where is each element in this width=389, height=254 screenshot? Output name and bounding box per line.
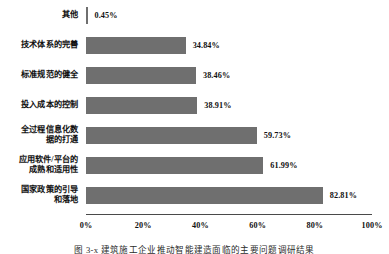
bar-row: 投入成本的控制38.91% [0,90,389,120]
bar-track: 59.73% [86,127,372,144]
bar-row: 标准规范的健全38.46% [0,60,389,90]
x-tick-label: 100% [362,221,383,230]
category-label: 国家政策的引导 和落地 [0,185,78,206]
category-label: 应用软件/平台的 成熟和适用性 [0,155,78,176]
figure-caption: 图 3-x 建筑施工企业推动智能建造面临的主要问题调研结果 [0,245,389,254]
bar-fill [86,67,196,84]
bar-value-label: 38.46% [203,71,230,80]
bar-row: 全过程信息化数 据的打通59.73% [0,120,389,150]
bar-value-label: 34.84% [193,41,220,50]
bar-track: 34.84% [86,37,372,54]
x-tick-label: 20% [135,221,152,230]
bar-fill [86,187,323,204]
bar-row: 国家政策的引导 和落地82.81% [0,180,389,210]
bar-fill [86,37,186,54]
bar-value-label: 61.99% [270,161,297,170]
bar-track: 0.45% [86,7,372,24]
bar-fill [86,157,263,174]
bar-row: 技术体系的完善34.84% [0,30,389,60]
bar-track: 82.81% [86,187,372,204]
bar-value-label: 0.45% [95,11,118,20]
x-tick-label: 0% [80,221,92,230]
bar-track: 38.91% [86,97,372,114]
x-axis-tick-labels: 0%20%40%60%80%100% [0,221,389,235]
bar-value-label: 82.81% [330,191,357,200]
category-label: 标准规范的健全 [0,70,78,81]
bar-chart-figure: 其他0.45%技术体系的完善34.84%标准规范的健全38.46%投入成本的控制… [0,0,389,254]
x-tick-label: 80% [306,221,323,230]
bar-row: 其他0.45% [0,0,389,30]
x-tick-label: 60% [249,221,266,230]
category-label: 全过程信息化数 据的打通 [0,125,78,146]
bar-fill [86,7,88,24]
chart-plot-area: 其他0.45%技术体系的完善34.84%标准规范的健全38.46%投入成本的控制… [0,0,389,222]
bar-track: 61.99% [86,157,372,174]
x-axis-line [86,214,372,215]
category-label: 技术体系的完善 [0,40,78,51]
bar-row: 应用软件/平台的 成熟和适用性61.99% [0,150,389,180]
x-tick-label: 40% [192,221,209,230]
category-label: 其他 [0,10,78,21]
category-label: 投入成本的控制 [0,100,78,111]
bar-fill [86,127,257,144]
bar-track: 38.46% [86,67,372,84]
bar-value-label: 38.91% [204,101,231,110]
bar-fill [86,97,197,114]
bar-value-label: 59.73% [264,131,291,140]
